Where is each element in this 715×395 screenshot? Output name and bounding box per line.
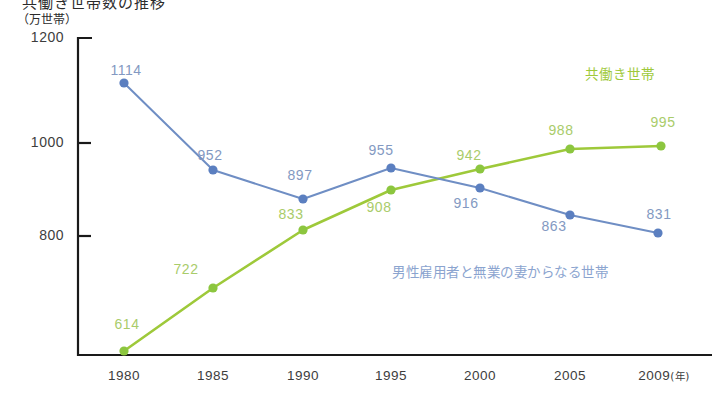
value-label-blue-1980: 1114: [100, 62, 152, 78]
data-point-green-2005: [565, 144, 574, 153]
value-label-green-1990: 833: [265, 206, 317, 222]
legend-label-male-breadwinner: 男性雇用者と無業の妻からなる世帯: [392, 261, 608, 281]
data-point-green-1985: [208, 283, 217, 292]
x-tick-label-2009-year: 2009: [638, 368, 670, 383]
value-label-green-1980: 614: [101, 316, 153, 332]
data-point-green-1995: [386, 185, 395, 194]
data-point-blue-2009: [653, 228, 662, 237]
value-label-blue-1995: 955: [355, 142, 407, 158]
legend-label-dual-income: 共働き世帯: [585, 63, 655, 83]
x-tick-label-1985: 1985: [178, 368, 248, 383]
plot-area: [0, 0, 715, 395]
value-label-blue-1990: 897: [274, 167, 326, 183]
x-tick-label-2009: 2009(年): [618, 368, 710, 383]
data-point-green-2009: [656, 141, 665, 150]
value-label-blue-2000: 916: [440, 195, 492, 211]
value-label-blue-2005: 863: [528, 218, 580, 234]
value-label-green-1995: 908: [353, 199, 405, 215]
data-point-green-1990: [298, 225, 307, 234]
value-label-green-2000: 942: [443, 147, 495, 163]
series-line-green: [124, 146, 661, 351]
axis-lines: [78, 38, 712, 355]
value-label-blue-1985: 952: [184, 147, 236, 163]
value-label-green-1985: 722: [160, 261, 212, 277]
x-tick-label-2000: 2000: [445, 368, 515, 383]
x-tick-label-1995: 1995: [356, 368, 426, 383]
data-point-blue-1990: [298, 194, 307, 203]
data-point-blue-2000: [475, 183, 484, 192]
data-point-blue-1985: [208, 165, 217, 174]
chart-figure: 共働き世帯数の推移 （万世帯） 1200 1000 800 共働き世帯 男性雇用…: [0, 0, 715, 395]
data-point-green-2000: [475, 164, 484, 173]
data-point-blue-1980: [119, 78, 128, 87]
x-tick-label-2005: 2005: [535, 368, 605, 383]
x-axis-unit-label: (年): [670, 370, 690, 382]
data-point-blue-1995: [386, 163, 395, 172]
value-label-blue-2009: 831: [633, 206, 685, 222]
x-tick-label-1990: 1990: [268, 368, 338, 383]
value-label-green-2005: 988: [535, 122, 587, 138]
value-label-green-2009: 995: [637, 114, 689, 130]
data-point-green-1980: [119, 346, 128, 355]
x-tick-label-1980: 1980: [89, 368, 159, 383]
